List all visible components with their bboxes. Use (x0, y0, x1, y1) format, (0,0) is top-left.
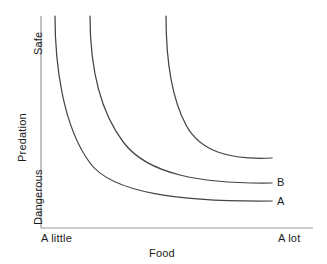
x-tick-label-a-lot: A lot (278, 233, 300, 244)
curve-a (55, 16, 272, 201)
x-tick-label-a-little: A little (41, 233, 72, 244)
x-axis-label: Food (149, 248, 175, 259)
curve-label-a: A (277, 196, 285, 207)
curve-label-b: B (277, 177, 285, 188)
y-tick-label-safe: Safe (33, 32, 44, 55)
chart-plot-area (0, 0, 327, 264)
y-axis-label: Predation (17, 113, 28, 162)
curve-top (166, 16, 272, 158)
y-tick-label-dangerous: Dangerous (33, 169, 44, 225)
chart-figure: Predation Safe Dangerous A little A lot … (0, 0, 327, 264)
